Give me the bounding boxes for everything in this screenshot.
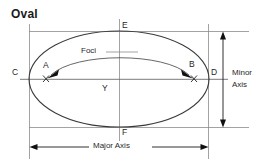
minor-axis-arrow-up xyxy=(220,32,226,40)
guide-lines xyxy=(29,19,249,159)
label-point-a: A xyxy=(43,60,49,70)
focus-markers xyxy=(43,76,197,83)
label-point-b: B xyxy=(189,59,195,69)
label-minor-axis-line1: Minor xyxy=(232,67,252,78)
foci-arrow-head-left xyxy=(47,70,59,79)
foci-arc-path xyxy=(51,58,189,75)
minor-axis-arrow-down xyxy=(220,120,226,128)
major-axis-arrow-right xyxy=(201,144,209,150)
label-major-axis: Major Axis xyxy=(93,141,130,150)
label-point-f: F xyxy=(122,127,127,137)
label-point-e: E xyxy=(122,20,128,30)
page-title: Oval xyxy=(11,7,38,21)
major-axis-arrow-left xyxy=(30,144,38,150)
label-point-c: C xyxy=(12,67,18,77)
foci-arrow-head-right xyxy=(181,70,193,79)
oval-diagram-graphic xyxy=(0,0,271,163)
diagram-canvas: Oval C D E F A B Y Foci Major Axis Minor… xyxy=(0,0,271,163)
label-point-d: D xyxy=(211,67,217,77)
label-center-y: Y xyxy=(102,83,108,93)
label-minor-axis-line2: Axis xyxy=(232,79,247,90)
foci-arc-arrow xyxy=(47,58,193,79)
label-foci: Foci xyxy=(81,46,96,55)
